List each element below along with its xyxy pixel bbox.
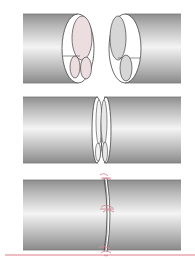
panel-3-sutured-ends [23,174,181,256]
fascicle-small-1 [70,56,80,78]
panel-2-approximated-ends [23,97,181,163]
fascicle-gray-large [110,16,126,60]
right-end-face [101,97,111,163]
suture-knot-top [100,174,111,180]
left-end-face [92,97,102,163]
right-tube-segment [109,14,181,83]
fascicle-large [72,16,92,60]
left-tube-segment [23,14,94,83]
panel-1-separated-ends [23,14,181,83]
anastomosis-diagram [0,0,195,259]
fascicle-gray-small [120,55,132,81]
fascicle-small-2 [81,57,92,79]
